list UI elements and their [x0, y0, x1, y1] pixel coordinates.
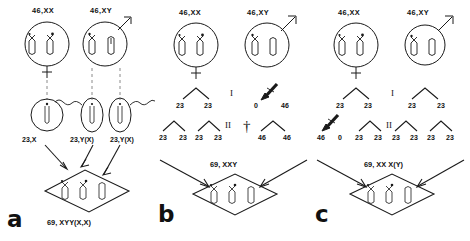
gamete-sperm-a-1 [55, 98, 103, 132]
panel-a-dispermy: 46,XX 46,XY [0, 0, 157, 241]
meiosis-ii-paternal-c-4: 23 [446, 134, 454, 141]
cell-death-dagger-b: † [243, 119, 251, 134]
gamete-label-ovum-a: 23,X [22, 136, 36, 143]
zygote-label-b: 69, XXY [210, 161, 237, 168]
zygote-label-c: 69, XX X(Y) [364, 161, 403, 168]
centromere-dot [51, 33, 54, 36]
meiosis-ii-paternal-b-2: 46 [283, 134, 291, 141]
parent-cell-oocyte-b [174, 23, 218, 67]
parent-cell-spermatocyte-a [83, 22, 127, 66]
nondisjunction-dart-c [322, 115, 338, 131]
meiosis-ii-maternal-b-1: 23 [159, 134, 167, 141]
panel-letter-c: c [315, 203, 329, 226]
zygote-a [45, 170, 129, 212]
meiosis-i-paternal-c-2: 23 [437, 102, 445, 109]
gamete-label-sperm-a-2: 23,Y(X) [110, 136, 134, 143]
gamete-label-sperm-a-1: 23,Y(X) [70, 136, 94, 143]
mars-symbol-a [118, 17, 131, 30]
meiosis-ii-maternal-b-2: 23 [179, 134, 187, 141]
meiosis-ii-maternal-c-3: 23 [355, 134, 363, 141]
panel-a-graphics [0, 0, 157, 241]
meiosis-ii-roman-c: II [386, 121, 392, 130]
meiosis-ii-roman-b: II [225, 121, 231, 130]
meiosis-ii-forks-c [359, 121, 452, 131]
nondisjunction-dart-b [261, 84, 277, 100]
venus-symbol-a [42, 66, 52, 78]
lineage-dashes-a [47, 68, 120, 100]
meiosis-ii-maternal-b-3: 23 [195, 134, 203, 141]
panel-b-graphics [155, 0, 313, 241]
meiosis-i-paternal-c-1: 23 [408, 102, 416, 109]
centromere-dot [28, 33, 30, 35]
meiosis-ii-forks-b [163, 121, 285, 131]
panel-letter-b: b [158, 203, 174, 226]
meiosis-ii-maternal-c-1: 46 [317, 134, 325, 141]
meiosis-ii-paternal-c-3: 23 [427, 134, 435, 141]
meiosis-ii-maternal-c-2: 0 [338, 134, 342, 141]
fertilization-arrows-a [45, 145, 120, 175]
panel-b-diandry: 46,XX 46,XY [155, 0, 313, 241]
meiosis-ii-paternal-b-1: 46 [258, 134, 266, 141]
meiosis-i-roman-c: I [391, 89, 394, 98]
meiosis-i-maternal-c-2: 23 [364, 102, 372, 109]
gamete-sperm-a-2 [109, 98, 155, 132]
mars-symbol-b [281, 16, 296, 31]
meiosis-i-maternal-c-1: 23 [336, 102, 344, 109]
meiosis-i-maternal-b-2: 23 [204, 102, 212, 109]
panel-c-digyny: 46,XX 46,XY [312, 0, 470, 241]
parent-cell-spermatocyte-c [405, 25, 445, 65]
meiosis-ii-maternal-b-4: 23 [214, 134, 222, 141]
mars-symbol-c [438, 16, 453, 31]
parent-cell-oocyte-a [25, 22, 69, 66]
meiosis-i-paternal-b-1: 0 [254, 102, 258, 109]
meiosis-ii-maternal-c-4: 23 [374, 134, 382, 141]
meiosis-i-paternal-b-2: 46 [281, 102, 289, 109]
venus-symbol-c [351, 67, 361, 79]
meiosis-i-fork-maternal-b [183, 88, 209, 99]
meiosis-i-maternal-b-1: 23 [176, 102, 184, 109]
meiosis-ii-paternal-c-1: 23 [392, 134, 400, 141]
venus-symbol-b [191, 67, 201, 79]
panel-letter-a: a [7, 208, 23, 231]
gamete-ovum-a [31, 99, 63, 131]
parent-cell-oocyte-c [334, 23, 378, 67]
meiosis-ii-paternal-c-2: 23 [410, 134, 418, 141]
zygote-label-a: 69, XYY(X,X) [47, 219, 91, 226]
meiosis-i-roman-b: I [230, 89, 233, 98]
